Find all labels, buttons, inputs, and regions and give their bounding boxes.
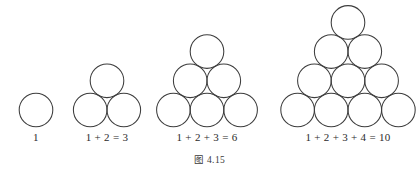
pyramid-circle	[348, 93, 382, 127]
pyramid-circle	[157, 93, 191, 127]
pyramid-circle	[173, 64, 207, 98]
pyramid-circle	[331, 6, 365, 40]
pyramid-circle	[107, 93, 141, 127]
figure-caption: 图 4.15	[0, 152, 419, 166]
group-label-4: 1 + 2 + 3 + 4 = 10	[275, 131, 419, 143]
pyramid-circle	[90, 64, 124, 98]
group-label-2: 1 + 2 = 3	[62, 131, 152, 143]
pyramid-circle	[224, 93, 258, 127]
pyramid-circle	[314, 35, 348, 69]
circle-pyramid-diagram	[0, 0, 419, 174]
figure-container: 1 1 + 2 = 3 1 + 2 + 3 = 6 1 + 2 + 3 + 4 …	[0, 0, 419, 174]
pyramid-circle	[298, 64, 332, 98]
pyramid-circle	[19, 93, 53, 127]
pyramid-circle	[190, 35, 224, 69]
pyramid-circle	[207, 64, 241, 98]
pyramid-circle	[382, 93, 416, 127]
pyramid-circle	[314, 93, 348, 127]
pyramid-circle	[190, 93, 224, 127]
pyramid-circle	[331, 64, 365, 98]
pyramid-circle	[365, 64, 399, 98]
pyramid-circle	[281, 93, 315, 127]
pyramid-circle	[73, 93, 107, 127]
pyramid-circle	[348, 35, 382, 69]
group-label-3: 1 + 2 + 3 = 6	[150, 131, 264, 143]
